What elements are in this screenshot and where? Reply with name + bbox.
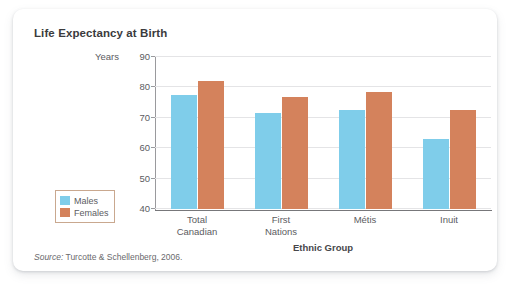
bar-total-canadian-females [198,81,224,209]
y-tick-mark-70 [151,117,155,118]
legend-swatch-females [60,208,70,217]
y-tick-label-70: 70 [139,111,150,122]
x-tick-label-line-0: First [239,214,323,226]
chart-legend: MalesFemales [55,190,115,223]
x-axis-line [155,210,492,211]
bar-first-nations-females [282,97,308,209]
x-tick-label-line-0: Métis [323,214,407,226]
x-tick-label-line-1: Canadian [155,226,239,238]
x-tick-label-first-nations: FirstNations [239,214,323,237]
plot-area: 405060708090 [155,57,491,209]
bar-inuit-males [423,139,449,209]
source-note: Source: Turcotte & Schellenberg, 2006. [34,252,182,262]
figure-card: Life Expectancy at Birth Years 405060708… [13,9,497,271]
legend-label-females: Females [74,208,109,218]
y-tick-mark-80 [151,86,155,87]
y-tick-mark-40 [151,208,155,209]
x-tick-label-métis: Métis [323,214,407,226]
bar-métis-males [339,110,365,209]
y-tick-label-80: 80 [139,81,150,92]
y-tick-label-60: 60 [139,142,150,153]
page-title: Life Expectancy at Birth [34,27,167,39]
gridline-90: 90 [155,56,491,57]
y-tick-label-90: 90 [139,51,150,62]
bar-first-nations-males [255,113,281,209]
x-tick-label-total-canadian: TotalCanadian [155,214,239,237]
y-axis-title: Years [95,51,119,62]
y-tick-label-40: 40 [139,203,150,214]
y-tick-mark-50 [151,178,155,179]
y-tick-mark-60 [151,147,155,148]
source-citation: Turcotte & Schellenberg, 2006. [66,252,183,262]
y-tick-label-50: 50 [139,172,150,183]
x-tick-label-line-0: Total [155,214,239,226]
x-tick-label-line-0: Inuit [407,214,491,226]
x-tick-label-inuit: Inuit [407,214,491,226]
legend-item-females: Females [60,207,109,218]
source-label: Source: [34,252,63,262]
bar-total-canadian-males [171,95,197,209]
legend-item-males: Males [60,195,109,206]
legend-swatch-males [60,196,70,205]
bar-métis-females [366,92,392,209]
legend-label-males: Males [74,196,98,206]
x-tick-label-line-1: Nations [239,226,323,238]
y-tick-mark-90 [151,56,155,57]
bar-inuit-females [450,110,476,209]
x-axis-title: Ethnic Group [155,242,491,253]
